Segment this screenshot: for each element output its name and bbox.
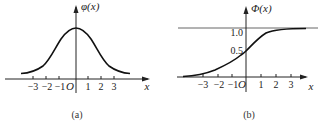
- panel-b-tick-label: −2: [214, 79, 225, 90]
- panel-a-density-chart: −3 −2 −1 O 1 2 3 x φ(x) (a): [5, 0, 150, 121]
- panel-a-x-axis-label: x: [144, 80, 150, 92]
- panel-b-y-tick-label: 1.0: [231, 27, 244, 38]
- panel-b-x-axis-label: x: [308, 80, 314, 92]
- panel-b-x-axis-arrow-icon: [300, 75, 308, 80]
- panel-b-tick-label: 1: [259, 79, 264, 90]
- panel-a-tick-label: −3: [28, 81, 39, 92]
- panel-a-tick-label: 3: [112, 81, 117, 92]
- panel-a-tick-label: 2: [99, 81, 104, 92]
- panel-a-origin-label: O: [66, 80, 74, 92]
- panel-b-y-axis-label: Φ(x): [251, 2, 272, 15]
- panel-a-caption: (a): [71, 109, 82, 121]
- panel-a-y-axis-label: φ(x): [81, 0, 100, 13]
- panel-b-cdf-chart: −3 −2 −1 O 1 2 3 x 1.0 0.5 Φ(x) (b): [177, 2, 318, 121]
- panel-a-tick-label: −2: [42, 81, 53, 92]
- panel-b-caption: (b): [243, 109, 255, 121]
- panel-a-tick-label: −1: [55, 81, 66, 92]
- panel-b-tick-label: −3: [198, 79, 209, 90]
- panel-b-y-tick-label: 0.5: [231, 45, 244, 56]
- panel-b-y-axis-arrow-icon: [244, 6, 249, 14]
- panel-b-cdf-curve: [183, 29, 306, 77]
- figure: −3 −2 −1 O 1 2 3 x φ(x) (a) −3: [0, 0, 320, 127]
- panel-a-tick-label: 1: [86, 81, 91, 92]
- panel-b-tick-label: −1: [228, 79, 239, 90]
- panel-b-origin-label: O: [238, 78, 246, 90]
- panel-b-tick-label: 3: [289, 79, 294, 90]
- panel-b-tick-label: 2: [274, 79, 279, 90]
- panel-a-y-axis-arrow-icon: [74, 5, 79, 13]
